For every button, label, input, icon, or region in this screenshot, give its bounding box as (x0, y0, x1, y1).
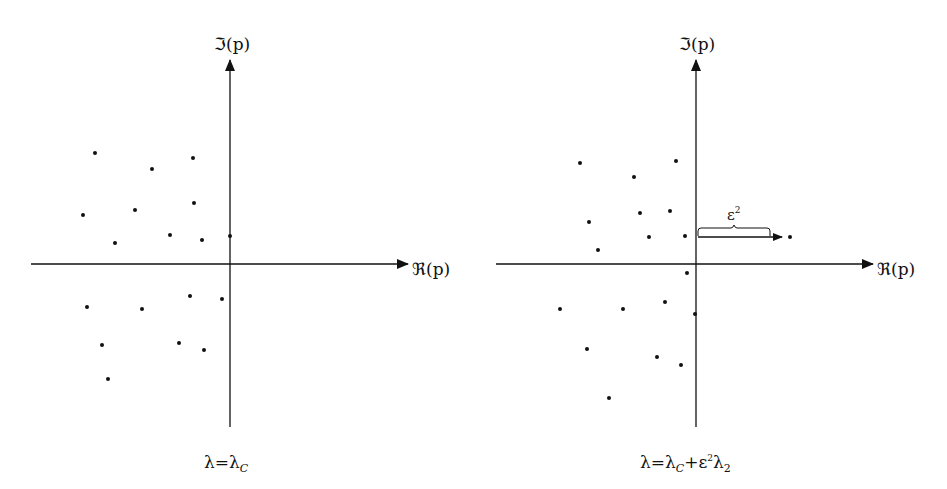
pole-point (113, 241, 117, 245)
pole-point (202, 348, 206, 352)
pole-point (106, 377, 110, 381)
pole-point (150, 167, 154, 171)
pole-point (668, 209, 672, 213)
pole-point (632, 175, 636, 179)
pole-point (788, 235, 792, 239)
pole-point (679, 363, 683, 367)
pole-point (93, 151, 97, 155)
pole-point (607, 396, 611, 400)
imag-axis-label: ℑ(p) (214, 34, 250, 54)
pole-diagram: ℑ(p) ℜ(p) λ=λC ℑ(p) ℜ(p) ε2 λ=λC+ε2λ2 (0, 0, 947, 489)
pole-point (220, 297, 224, 301)
pole-point (558, 307, 562, 311)
pole-point (81, 213, 85, 217)
pole-point (585, 347, 589, 351)
pole-point (655, 355, 659, 359)
pole-point (685, 271, 689, 275)
pole-point (228, 234, 232, 238)
caption-right: λ=λC+ε2λ2 (640, 452, 731, 475)
pole-point (638, 211, 642, 215)
pole-point (200, 238, 204, 242)
imag-axis-label: ℑ(p) (679, 34, 715, 54)
pole-point (683, 234, 687, 238)
shift-label: ε2 (727, 205, 741, 224)
pole-point (140, 307, 144, 311)
right-panel: ℑ(p) ℜ(p) ε2 λ=λC+ε2λ2 (496, 34, 915, 475)
pole-point (587, 220, 591, 224)
pole-point (85, 305, 89, 309)
pole-point (192, 201, 196, 205)
caption-left: λ=λC (204, 452, 249, 475)
pole-point (621, 307, 625, 311)
shift-annotation: ε2 (698, 205, 782, 237)
poles-right (558, 159, 792, 400)
pole-point (133, 208, 137, 212)
pole-point (578, 161, 582, 165)
pole-point (647, 235, 651, 239)
left-panel: ℑ(p) ℜ(p) λ=λC (31, 34, 450, 475)
pole-point (100, 343, 104, 347)
pole-point (596, 248, 600, 252)
pole-point (663, 300, 667, 304)
brace-icon (698, 225, 770, 236)
real-axis-label: ℜ(p) (877, 259, 915, 279)
pole-point (674, 159, 678, 163)
poles-left (81, 151, 232, 381)
pole-point (693, 312, 697, 316)
pole-point (168, 233, 172, 237)
pole-point (177, 341, 181, 345)
pole-point (191, 156, 195, 160)
pole-point (188, 294, 192, 298)
real-axis-label: ℜ(p) (412, 259, 450, 279)
